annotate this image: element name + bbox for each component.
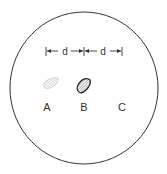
blob-b — [77, 79, 90, 93]
dimension-line — [46, 47, 122, 56]
point-label-c: C — [118, 101, 126, 113]
dimension-label-1: d — [62, 46, 68, 57]
blob-a — [44, 78, 58, 89]
point-label-b: B — [80, 101, 87, 113]
dimension-label-2: d — [100, 46, 106, 57]
point-label-a: A — [43, 101, 51, 113]
diagram-canvas: d d A B C — [0, 0, 167, 174]
